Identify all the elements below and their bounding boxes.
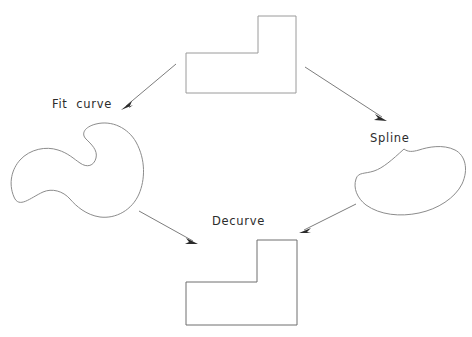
kidney-blob-left (11, 123, 143, 217)
arrow-top-to-left-blob (121, 64, 176, 110)
polygonal-l-shape-top (186, 16, 296, 93)
diagram-canvas: Fit curve Spline Decurve (0, 0, 472, 337)
arrow-right-blob-to-bottom (299, 204, 356, 233)
label-fit-curve: Fit curve (52, 99, 112, 111)
arrow-top-to-right-blob (305, 67, 387, 121)
label-decurve: Decurve (212, 216, 265, 228)
polygonal-l-shape-bottom (186, 240, 297, 325)
bean-blob-right (355, 147, 466, 215)
arrow-left-blob-to-bottom (139, 211, 198, 244)
label-spline: Spline (370, 133, 410, 145)
diagram-svg (0, 0, 472, 337)
